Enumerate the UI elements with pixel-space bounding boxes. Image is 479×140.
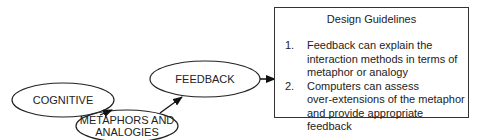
design-guidelines-title: Design Guidelines: [275, 13, 468, 25]
edge-metaphors-to-feedback: [160, 97, 182, 113]
design-guidelines-list: 1. Feedback can explain the interaction …: [283, 39, 468, 134]
design-guidelines-box: Design Guidelines 1. Feedback can explai…: [274, 7, 469, 118]
guideline-item: 1. Feedback can explain the interaction …: [283, 39, 468, 80]
guideline-text: Feedback can explain the interaction met…: [307, 39, 457, 80]
metaphors-node-label: METAPHORS AND ANALOGIES: [76, 114, 178, 138]
feedback-node-label: FEEDBACK: [150, 73, 260, 85]
guideline-item: 2. Computers can assess over-extensions …: [283, 80, 468, 134]
guideline-number: 1.: [283, 39, 307, 80]
guideline-number: 2.: [283, 80, 307, 134]
guideline-text: Computers can assess over-extensions of …: [307, 80, 468, 134]
cognitive-node-label: COGNITIVE: [12, 94, 114, 106]
